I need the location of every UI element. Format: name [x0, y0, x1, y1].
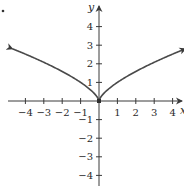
- x-tick-label: −2: [55, 107, 70, 118]
- y-tick-label: −4: [78, 170, 93, 181]
- x-tick-label: −4: [18, 107, 33, 118]
- y-tick-label: −3: [78, 151, 93, 162]
- y-tick-label: 4: [87, 21, 93, 32]
- x-tick-label: 2: [133, 107, 139, 118]
- y-tick-label: 2: [87, 58, 93, 69]
- corner-dot: [2, 10, 5, 13]
- x-tick-label: −3: [36, 107, 51, 118]
- x-tick-label: 1: [114, 107, 120, 118]
- y-tick-label: −1: [78, 114, 93, 125]
- x-tick-label: 4: [169, 107, 175, 118]
- x-axis-label: x: [180, 104, 184, 117]
- y-tick-label: 1: [87, 77, 93, 88]
- y-tick-label: −2: [78, 133, 93, 144]
- x-tick-label: 3: [151, 107, 157, 118]
- graph: −4−3−2−11234−4−3−2−11234 y x: [0, 0, 184, 192]
- origin-point: [97, 99, 101, 103]
- curve-line: [13, 49, 184, 101]
- y-tick-label: 3: [87, 40, 93, 51]
- axes: [8, 6, 182, 186]
- y-axis-label: y: [87, 1, 95, 14]
